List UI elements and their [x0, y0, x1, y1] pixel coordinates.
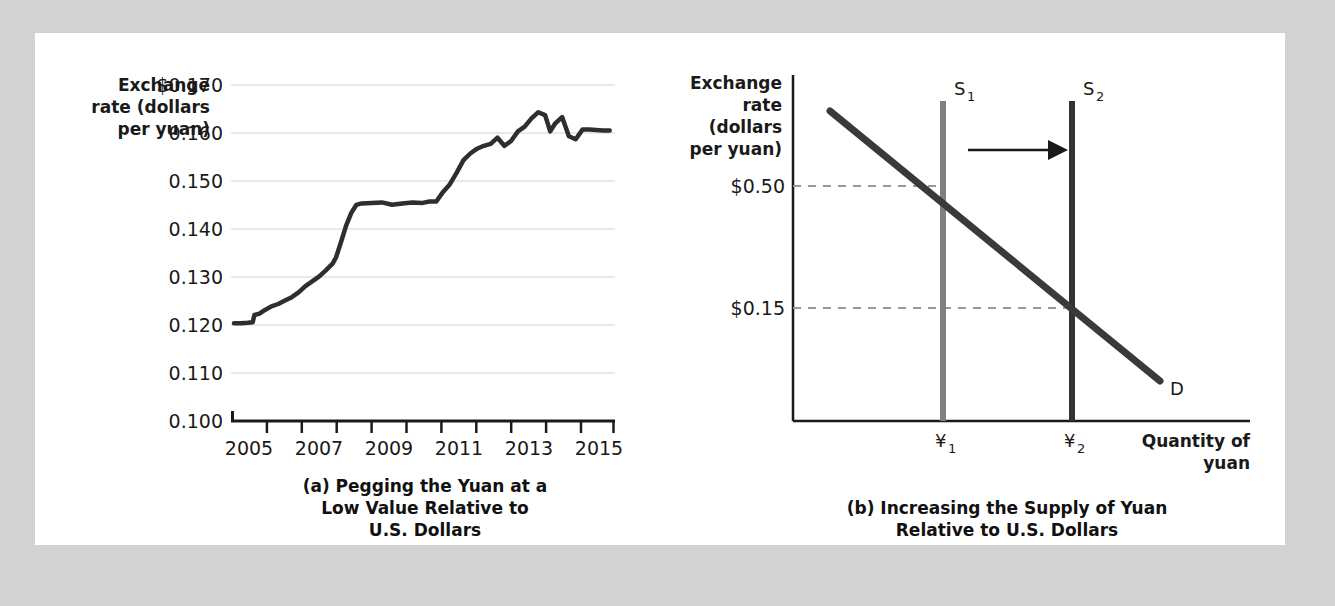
y-tick-label: 0.150 — [169, 170, 223, 192]
y-tick-label: 0.160 — [169, 122, 223, 144]
quantity2-label-sub: 2 — [1077, 441, 1085, 456]
demand-curve-label: D — [1170, 378, 1184, 399]
panel-a-caption-line3: U.S. Dollars — [369, 520, 481, 540]
panel-b-caption: (b) Increasing the Supply of Yuan Relati… — [847, 498, 1168, 540]
y-tick-label: 0.120 — [169, 314, 223, 336]
panel-a-caption-line2: Low Value Relative to — [321, 498, 528, 518]
quantity2-label: ¥ 2 — [1064, 430, 1085, 456]
panel-b-x-axis-title-line2: yuan — [1203, 453, 1250, 473]
supply1-label-sub: 1 — [967, 89, 975, 104]
panel-b-y-axis-title-line2: rate — [742, 95, 782, 115]
y-tick-label: 0.130 — [169, 266, 223, 288]
exchange-rate-line — [234, 112, 610, 323]
supply1-label-text: S — [954, 78, 965, 99]
supply-shift-arrow — [968, 140, 1068, 160]
panel-a-caption: (a) Pegging the Yuan at a Low Value Rela… — [303, 476, 548, 540]
x-tick-label: 2011 — [435, 437, 483, 459]
panel-a-x-axis — [231, 411, 615, 433]
panel-b-y-axis-title-line3: (dollars — [709, 117, 782, 137]
figure-card: Exchange rate (dollars per yuan) $0.170 … — [35, 33, 1285, 545]
quantity1-label-text: ¥ — [935, 430, 946, 451]
panel-a-caption-line1: (a) Pegging the Yuan at a — [303, 476, 548, 496]
y-tick-label: $0.170 — [157, 74, 223, 96]
price-low-label: $0.15 — [731, 297, 785, 319]
panel-a-svg: Exchange rate (dollars per yuan) $0.170 … — [35, 33, 660, 545]
panel-b-y-axis-title-line1: Exchange — [690, 73, 782, 93]
panel-b-y-axis-title-line4: per yuan) — [689, 139, 782, 159]
chart-panel-b: Exchange rate (dollars per yuan) $0.50 $… — [660, 33, 1285, 545]
panel-b-x-axis-title-line1: Quantity of — [1142, 431, 1251, 451]
chart-panel-a: Exchange rate (dollars per yuan) $0.170 … — [35, 33, 660, 545]
panel-b-caption-line1: (b) Increasing the Supply of Yuan — [847, 498, 1168, 518]
panel-a-gridlines — [231, 85, 615, 373]
x-tick-label: 2005 — [225, 437, 273, 459]
x-tick-label: 2015 — [575, 437, 623, 459]
panel-b-caption-line2: Relative to U.S. Dollars — [896, 520, 1118, 540]
y-tick-label: 0.100 — [169, 410, 223, 432]
quantity1-label-sub: 1 — [948, 441, 956, 456]
price-high-label: $0.50 — [731, 175, 785, 197]
supply-curve-s2-label: S 2 — [1083, 78, 1104, 104]
quantity2-label-text: ¥ — [1064, 430, 1075, 451]
panel-a-y-axis-title-line2: rate (dollars — [91, 97, 210, 117]
demand-curve-d — [830, 111, 1160, 381]
supply2-label-sub: 2 — [1096, 89, 1104, 104]
y-tick-label: 0.110 — [169, 362, 223, 384]
x-tick-label: 2009 — [365, 437, 413, 459]
panel-b-svg: Exchange rate (dollars per yuan) $0.50 $… — [660, 33, 1285, 545]
quantity1-label: ¥ 1 — [935, 430, 956, 456]
y-tick-label: 0.140 — [169, 218, 223, 240]
supply2-label-text: S — [1083, 78, 1094, 99]
x-tick-label: 2007 — [295, 437, 343, 459]
panel-a-x-tick-labels: 2005 2007 2009 2011 2013 2015 — [225, 437, 623, 459]
supply-curve-s1-label: S 1 — [954, 78, 975, 104]
x-tick-label: 2013 — [505, 437, 553, 459]
